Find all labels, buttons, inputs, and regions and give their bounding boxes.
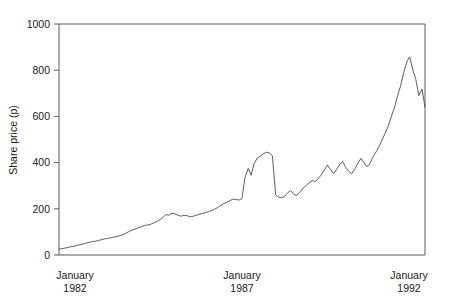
x-tick-label-year: 1982 bbox=[63, 282, 87, 294]
x-tick-label-year: 1992 bbox=[397, 282, 421, 294]
y-tick-label: 200 bbox=[32, 203, 50, 215]
x-tick-label-month: January bbox=[223, 269, 261, 281]
axis-frame bbox=[59, 24, 425, 255]
y-tick-label: 600 bbox=[32, 110, 50, 122]
x-tick-label-year: 1987 bbox=[230, 282, 254, 294]
data-series-group bbox=[59, 57, 425, 249]
series-line-share-price bbox=[59, 57, 425, 249]
y-axis-title: Share price (p) bbox=[7, 105, 19, 174]
y-tick-label: 1000 bbox=[27, 18, 51, 30]
x-axis-labels: January1982January1987January1992 bbox=[56, 269, 428, 294]
x-tick-label-month: January bbox=[390, 269, 428, 281]
x-tick-label-month: January bbox=[56, 269, 94, 281]
share-price-line-chart: Share price (p) 02004006008001000 Januar… bbox=[0, 0, 460, 302]
y-tick-label: 0 bbox=[44, 249, 50, 261]
y-tick-label: 400 bbox=[32, 156, 50, 168]
y-axis-ticks: 02004006008001000 bbox=[27, 18, 59, 261]
y-tick-label: 800 bbox=[32, 64, 50, 76]
chart-page: Share price (p) 02004006008001000 Januar… bbox=[0, 0, 460, 302]
